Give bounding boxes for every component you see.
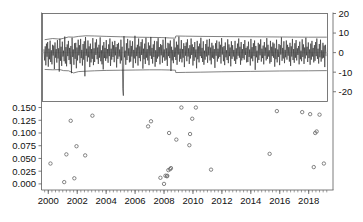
scatter-point — [312, 165, 315, 168]
x-axis-tick-label: 2012 — [211, 195, 232, 206]
x-axis-tick-label: 2018 — [298, 195, 319, 206]
scatter-point — [175, 138, 178, 141]
x-axis-tick-label: 2006 — [125, 195, 146, 206]
x-axis-tick-label: 2016 — [269, 195, 290, 206]
right-value-axis: 20100-10-20 — [333, 8, 352, 190]
scatter-point — [194, 106, 197, 109]
scatter-point — [149, 120, 152, 123]
left-axis-tick-label: 0.125 — [12, 115, 36, 126]
scatter-point — [308, 112, 311, 115]
left-axis-tick-label: 0.000 — [12, 178, 36, 189]
scatter-point — [188, 144, 191, 147]
right-axis-tick-label: -10 — [339, 67, 353, 78]
scatter-point — [146, 125, 149, 128]
scatter-point — [318, 113, 321, 116]
x-axis-tick-label: 2010 — [182, 195, 203, 206]
left-axis-tick-label: 0.075 — [12, 140, 36, 151]
x-axis-tick-label: 2004 — [96, 195, 117, 206]
scatter-point — [65, 153, 68, 156]
x-axis-tick-label: 2008 — [153, 195, 174, 206]
scatter-point — [69, 119, 72, 122]
scatter-point — [191, 117, 194, 120]
right-axis-tick-label: 10 — [339, 27, 350, 38]
left-axis-tick-label: 0.025 — [12, 166, 36, 177]
scatter-point — [159, 176, 162, 179]
left-axis-tick-label: 0.100 — [12, 127, 36, 138]
scatter-point — [83, 154, 86, 157]
left-pvalue-axis: 0.0000.0250.0500.0750.1000.1250.150 — [12, 13, 41, 191]
left-axis-tick-label: 0.150 — [12, 102, 36, 113]
right-axis-tick-label: 20 — [339, 8, 350, 19]
scatter-point — [167, 131, 170, 134]
scatter-point — [49, 162, 52, 165]
left-axis-tick-label: 0.050 — [12, 153, 36, 164]
x-axis-tick-label: 2014 — [240, 195, 261, 206]
right-axis-tick-label: -20 — [339, 86, 353, 97]
chart-canvas: 20100-10-20 0.0000.0250.0500.0750.1000.1… — [0, 0, 363, 222]
scatter-point — [75, 145, 78, 148]
scatter-point — [268, 152, 271, 155]
right-axis-tick-label: 0 — [339, 47, 344, 58]
x-axis-tick-label: 2002 — [67, 195, 88, 206]
scatter-point — [188, 132, 191, 135]
bottom-year-axis: 2000200220042006200820102012201420162018 — [38, 190, 334, 206]
scatter-point — [322, 162, 325, 165]
scatter-point — [162, 182, 165, 185]
scatter-point — [180, 106, 183, 109]
scatter-point — [209, 168, 212, 171]
x-axis-tick-label: 2000 — [38, 195, 59, 206]
chart-figure: 20100-10-20 0.0000.0250.0500.0750.1000.1… — [0, 0, 363, 222]
scatter-point — [91, 114, 94, 117]
residual-series-line — [44, 36, 326, 96]
scatter-point — [73, 177, 76, 180]
scatter-point — [275, 109, 278, 112]
scatter-point — [300, 110, 303, 113]
pvalue-scatter-points — [49, 106, 326, 186]
scatter-point — [62, 180, 65, 183]
